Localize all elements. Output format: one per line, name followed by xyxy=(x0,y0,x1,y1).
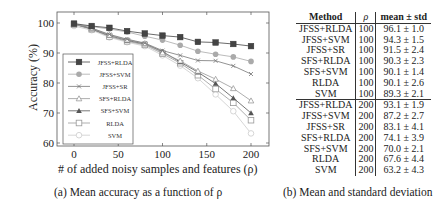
square-marker-icon xyxy=(142,31,148,37)
rho-cell: 200 xyxy=(356,133,376,144)
square-marker-icon xyxy=(160,33,166,39)
caption-a: (a) Mean accuracy as a function of ρ xyxy=(54,186,222,198)
triangle-marker-icon xyxy=(213,76,219,81)
square-marker-icon xyxy=(107,25,113,31)
y-tick-label: 100 xyxy=(38,17,55,29)
circle-marker-icon xyxy=(76,71,82,77)
square-marker-icon xyxy=(213,86,219,92)
circle-marker-icon xyxy=(177,42,183,48)
legend-label: JFSS+RLDA xyxy=(98,59,133,66)
table-row: SVM20063.2 ± 4.3 xyxy=(296,165,431,176)
accuracy-line-chart: 05010015020060708090100JFSS+RLDAJFSS+SVM… xyxy=(0,0,280,185)
x-tick-label: 100 xyxy=(154,148,171,160)
mean-std-cell: 90.1 ± 2.6 xyxy=(376,78,431,89)
square-marker-icon xyxy=(76,59,82,65)
legend-label: JFSS+SR xyxy=(103,83,129,90)
circle-marker-icon xyxy=(76,132,82,138)
y-tick-label: 60 xyxy=(43,137,55,149)
square-marker-icon xyxy=(231,41,237,47)
caption-b: (b) Mean and standard deviation xyxy=(283,186,432,198)
circle-marker-icon xyxy=(248,131,254,137)
legend-label: RLDA xyxy=(106,120,124,127)
x-tick-label: 150 xyxy=(199,148,216,160)
y-tick-label: 80 xyxy=(43,77,55,89)
circle-marker-icon xyxy=(248,59,254,65)
rho-cell: 100 xyxy=(356,89,376,100)
legend-label: JFSS+SVM xyxy=(99,71,130,78)
mean-std-cell: 96.1 ± 1.0 xyxy=(376,23,431,34)
mean-std-cell: 63.2 ± 4.3 xyxy=(376,165,431,176)
circle-marker-icon xyxy=(213,92,219,98)
legend-label: SVM xyxy=(108,132,122,139)
table-body: JFSS+RLDA10096.1 ± 1.0JFSS+SVM10094.3 ± … xyxy=(296,23,431,176)
header-mean-std: mean ± std xyxy=(376,12,431,23)
header-method: Method xyxy=(296,12,356,23)
table-header-row: Method ρ mean ± std xyxy=(296,12,431,23)
table-row: SVM10089.3 ± 2.1 xyxy=(296,89,431,100)
triangle-marker-icon xyxy=(248,98,254,103)
y-tick-label: 70 xyxy=(43,107,55,119)
results-table: Method ρ mean ± std JFSS+RLDA10096.1 ± 1… xyxy=(296,12,431,176)
circle-marker-icon xyxy=(231,54,237,60)
y-tick-label: 90 xyxy=(43,47,55,59)
circle-marker-icon xyxy=(213,51,219,57)
header-rho: ρ xyxy=(356,12,376,23)
y-axis-label: Accuracy (%) xyxy=(26,33,41,123)
square-marker-icon xyxy=(124,28,130,34)
square-marker-icon xyxy=(89,23,95,29)
circle-marker-icon xyxy=(195,48,201,54)
table-row: JFSS+RLDA10096.1 ± 1.0 xyxy=(296,23,431,34)
square-marker-icon xyxy=(71,21,77,27)
method-cell: SFS+RLDA xyxy=(296,133,356,144)
mean-std-cell: 89.3 ± 2.1 xyxy=(376,89,431,100)
mean-std-cell: 74.1 ± 3.9 xyxy=(376,133,431,144)
method-cell: SVM xyxy=(296,89,356,100)
square-marker-icon xyxy=(248,43,254,49)
square-marker-icon xyxy=(231,100,237,106)
method-cell: JFSS+RLDA xyxy=(296,23,356,34)
method-cell: RLDA xyxy=(296,78,356,89)
rho-cell: 100 xyxy=(356,78,376,89)
square-marker-icon xyxy=(248,117,254,123)
table-row: RLDA10090.1 ± 2.6 xyxy=(296,78,431,89)
method-cell: SVM xyxy=(296,165,356,176)
rho-cell: 100 xyxy=(356,23,376,34)
square-marker-icon xyxy=(177,34,183,40)
square-marker-icon xyxy=(195,39,201,45)
triangle-marker-icon xyxy=(231,86,237,91)
rho-cell: 200 xyxy=(356,165,376,176)
square-marker-icon xyxy=(76,120,82,126)
x-tick-label: 200 xyxy=(243,148,260,160)
legend-label: SFS+RLDA xyxy=(99,95,132,102)
circle-marker-icon xyxy=(231,108,237,114)
legend-label: SFS+SVM xyxy=(101,107,130,114)
x-tick-label: 0 xyxy=(71,148,77,160)
x-tick-label: 50 xyxy=(113,148,125,160)
x-axis-label: # of added noisy samples and features (ρ… xyxy=(58,162,258,177)
table-row: SFS+RLDA20074.1 ± 3.9 xyxy=(296,133,431,144)
square-marker-icon xyxy=(213,40,219,46)
